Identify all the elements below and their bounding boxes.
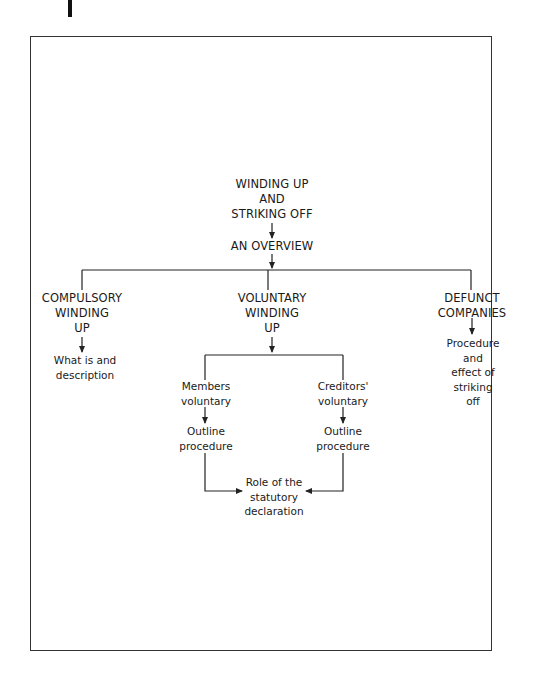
node-compulsory-detail: What is and description [54,353,116,382]
node-defunct: DEFUNCT COMPANIES [438,291,507,321]
node-root: WINDING UP AND STRIKING OFF [231,177,312,222]
arrow-members-to-role [205,453,242,491]
node-overview: AN OVERVIEW [231,239,313,254]
node-voluntary: VOLUNTARY WINDING UP [238,291,307,336]
arrow-creditors-to-role [306,453,343,491]
node-members-outline: Outline procedure [179,424,232,453]
node-members-voluntary: Members voluntary [181,379,231,408]
node-defunct-detail: Procedure and effect of striking off [447,336,500,409]
node-statutory-declaration: Role of the statutory declaration [244,475,303,519]
node-creditors-voluntary: Creditors' voluntary [318,379,369,408]
node-creditors-outline: Outline procedure [316,424,369,453]
node-compulsory: COMPULSORY WINDING UP [42,291,122,336]
